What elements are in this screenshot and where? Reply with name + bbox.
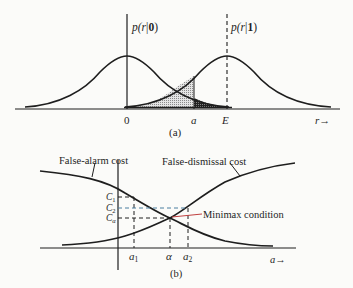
tick-a2: a2 [183, 250, 193, 264]
tick-threshold-a: a [191, 114, 197, 126]
figure-a: p(r|0) p(r|1) 0 a E r→ (a) [15, 14, 340, 139]
detection-theory-figure: p(r|0) p(r|1) 0 a E r→ (a) [0, 0, 353, 288]
tick-c1: C1 [106, 192, 116, 203]
r-axis-label: r→ [315, 114, 330, 126]
p0-label: p(r|0) [131, 21, 158, 34]
tick-signal-e: E [221, 114, 229, 126]
caption-a: (a) [169, 126, 182, 139]
figure-b: C1 C2 Cα a1 α a2 False-alarm cost False-… [40, 155, 296, 280]
minimax-annotation: Minimax condition [203, 209, 285, 220]
tick-alpha: α [166, 250, 172, 262]
tick-c-alpha: Cα [106, 213, 116, 224]
a-axis-label: a→ [270, 254, 286, 265]
p1-label: p(r|1) [230, 21, 257, 34]
false-dismissal-label: False-dismissal cost [162, 156, 246, 167]
false-dismissal-cost-curve [62, 163, 295, 245]
caption-b: (b) [170, 268, 183, 280]
tick-zero: 0 [124, 114, 130, 126]
false-alarm-label: False-alarm cost [59, 155, 128, 166]
tick-a1: a1 [129, 250, 139, 264]
